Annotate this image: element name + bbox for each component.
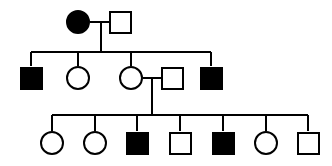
symbol-II-1-male-affected[interactable] (21, 68, 42, 89)
symbol-III-3-male-affected[interactable] (127, 133, 148, 154)
symbol-III-2-female-unaffected[interactable] (84, 132, 106, 154)
symbol-III-5-male-affected[interactable] (213, 133, 234, 154)
symbol-III-7-male-unaffected[interactable] (298, 133, 319, 154)
symbol-III-6-female-unaffected[interactable] (255, 132, 277, 154)
pedigree-chart (0, 0, 332, 166)
pedigree-canvas (0, 0, 332, 166)
symbol-III-4-male-unaffected[interactable] (170, 133, 191, 154)
symbol-I-2-male-unaffected[interactable] (110, 12, 131, 33)
symbol-II-2-female-unaffected[interactable] (67, 67, 89, 89)
symbol-I-1-female-affected[interactable] (67, 11, 89, 33)
symbol-II-3-female-unaffected[interactable] (120, 67, 142, 89)
symbol-III-1-female-unaffected[interactable] (41, 132, 63, 154)
symbol-II-5-male-affected[interactable] (201, 68, 222, 89)
symbol-II-4-male-unaffected[interactable] (162, 68, 183, 89)
symbols-group (21, 11, 319, 154)
